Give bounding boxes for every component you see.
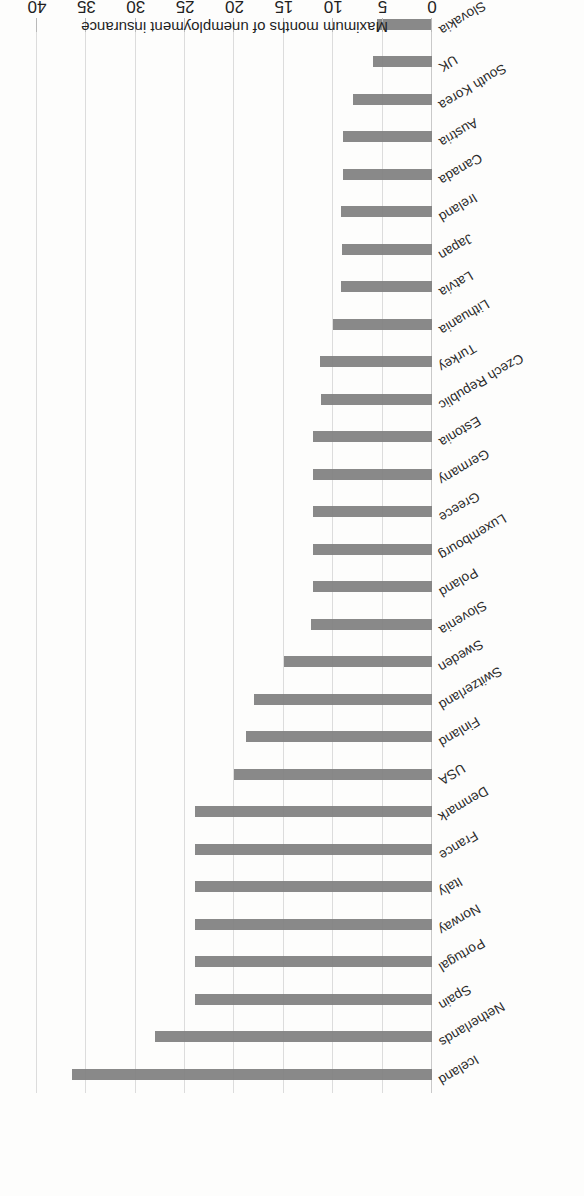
category-row: Canada: [434, 156, 584, 194]
bar-row: [37, 306, 432, 344]
category-label-ireland: Ireland: [436, 191, 480, 225]
bar-czech-republic: [321, 394, 432, 405]
category-row: Norway: [434, 906, 584, 944]
category-label-turkey: Turkey: [436, 341, 479, 375]
bar-row: [37, 793, 432, 831]
bar-row: [37, 418, 432, 456]
category-label-spain: Spain: [436, 982, 474, 1013]
bar-austria: [343, 132, 432, 143]
category-label-estonia: Estonia: [436, 414, 483, 450]
tick-label-30: 30: [126, 0, 145, 16]
bar-row: [37, 643, 432, 681]
category-row: Spain: [434, 981, 584, 1019]
category-label-latvia: Latvia: [436, 269, 475, 301]
bar-south-korea: [353, 94, 432, 105]
bar-row: [37, 906, 432, 944]
tick-label-5: 5: [378, 0, 387, 16]
category-label-france: France: [436, 828, 480, 863]
bar-row: [37, 943, 432, 981]
category-row: Italy: [434, 868, 584, 906]
bar-luxembourg: [314, 544, 433, 555]
bar-row: [37, 493, 432, 531]
bar-row: [37, 531, 432, 569]
category-row: Finland: [434, 718, 584, 756]
bar-chart: IcelandNetherlandsSpainPortugalNorwayIta…: [0, 0, 584, 1196]
bar-latvia: [341, 282, 432, 293]
bar-greece: [314, 507, 433, 518]
bar-switzerland: [254, 694, 432, 705]
bar-row: [37, 981, 432, 1019]
category-row: Luxembourg: [434, 531, 584, 569]
bar-sweden: [284, 657, 432, 668]
category-label-iceland: Iceland: [436, 1052, 482, 1088]
category-row: UK: [434, 43, 584, 81]
bar-row: [37, 1056, 432, 1094]
category-row: USA: [434, 756, 584, 794]
category-row: Ireland: [434, 193, 584, 231]
tick-label-0: 0: [427, 0, 436, 16]
category-label-italy: Italy: [436, 875, 465, 901]
bar-denmark: [195, 807, 432, 818]
category-row: Greece: [434, 493, 584, 531]
bar-row: [37, 1018, 432, 1056]
category-row: France: [434, 831, 584, 869]
bar-row: [37, 193, 432, 231]
bar-row: [37, 231, 432, 269]
category-row: Latvia: [434, 268, 584, 306]
bar-japan: [342, 244, 432, 255]
category-axis: IcelandNetherlandsSpainPortugalNorwayIta…: [434, 18, 584, 1093]
bar-row: [37, 756, 432, 794]
category-row: Sweden: [434, 643, 584, 681]
bar-row: [37, 118, 432, 156]
bar-row: [37, 381, 432, 419]
tick-label-15: 15: [274, 0, 293, 16]
category-label-japan: Japan: [436, 231, 476, 263]
bar-slovenia: [311, 619, 432, 630]
bar-row: [37, 343, 432, 381]
category-row: Czech Republic: [434, 381, 584, 419]
bar-turkey: [320, 357, 432, 368]
tick-label-35: 35: [77, 0, 96, 16]
bar-netherlands: [156, 1032, 433, 1043]
tick-label-20: 20: [225, 0, 244, 16]
bar-row: [37, 831, 432, 869]
bar-portugal: [195, 957, 432, 968]
value-axis: 0510152025303540: [37, 17, 432, 18]
category-row: Turkey: [434, 343, 584, 381]
category-row: Slovenia: [434, 606, 584, 644]
bar-norway: [195, 919, 432, 930]
tick-label-40: 40: [28, 0, 47, 16]
bar-row: [37, 718, 432, 756]
bar-row: [37, 568, 432, 606]
category-row: Lithuania: [434, 306, 584, 344]
bar-usa: [235, 769, 433, 780]
tick-label-25: 25: [176, 0, 195, 16]
bar-ireland: [341, 207, 432, 218]
category-row: Poland: [434, 568, 584, 606]
category-row: Austria: [434, 118, 584, 156]
category-row: Switzerland: [434, 681, 584, 719]
bar-row: [37, 681, 432, 719]
category-row: Slovakia: [434, 6, 584, 44]
category-label-poland: Poland: [436, 566, 480, 601]
bar-france: [195, 844, 432, 855]
bar-row: [37, 456, 432, 494]
bar-row: [37, 606, 432, 644]
bar-row: [37, 156, 432, 194]
rotated-page-content: IcelandNetherlandsSpainPortugalNorwayIta…: [0, 0, 584, 1196]
bar-poland: [314, 582, 433, 593]
category-row: Portugal: [434, 943, 584, 981]
category-label-canada: Canada: [436, 150, 485, 188]
bar-spain: [195, 994, 432, 1005]
bar-canada: [343, 169, 432, 180]
bar-row: [37, 43, 432, 81]
plot-area: [37, 18, 432, 1093]
category-label-greece: Greece: [436, 489, 482, 525]
category-label-austria: Austria: [436, 116, 480, 151]
bar-germany: [314, 469, 433, 480]
bar-iceland: [72, 1069, 432, 1080]
category-row: Germany: [434, 456, 584, 494]
bar-finland: [246, 732, 432, 743]
bar-row: [37, 81, 432, 119]
category-label-norway: Norway: [436, 901, 483, 938]
